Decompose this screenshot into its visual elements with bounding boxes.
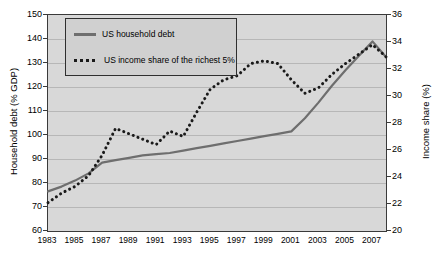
y-axis-right-tick-mark bbox=[387, 230, 391, 231]
legend-item-household-debt: US household debt bbox=[74, 29, 174, 39]
y-axis-right-tick-mark bbox=[387, 68, 391, 69]
legend-swatch-solid-line-icon bbox=[74, 33, 96, 36]
y-axis-right-tick-label: 20 bbox=[392, 226, 422, 235]
y-axis-left-tick-label: 70 bbox=[12, 202, 42, 211]
y-axis-right-tick-mark bbox=[387, 176, 391, 177]
y-axis-left-tick-label: 100 bbox=[12, 130, 42, 139]
chart-container: Household debt (% GDP) Income share (%) … bbox=[0, 0, 435, 260]
y-axis-left-tick-label: 60 bbox=[12, 226, 42, 235]
y-axis-right-tick-label: 36 bbox=[392, 10, 422, 19]
y-axis-left-tick-label: 90 bbox=[12, 154, 42, 163]
y-axis-right-tick-label: 34 bbox=[392, 37, 422, 46]
y-axis-left-tick-label: 120 bbox=[12, 82, 42, 91]
y-axis-right-tick-label: 24 bbox=[392, 172, 422, 181]
y-axis-right-tick-label: 32 bbox=[392, 64, 422, 73]
y-axis-right-tick-mark bbox=[387, 14, 391, 15]
y-axis-right-tick-mark bbox=[387, 122, 391, 123]
y-axis-right-tick-label: 26 bbox=[392, 145, 422, 154]
y-axis-right-tick-label: 22 bbox=[392, 199, 422, 208]
y-axis-right-tick-mark bbox=[387, 149, 391, 150]
legend-item-income-share: US income share of the richest 5% bbox=[74, 55, 235, 65]
y-axis-left-tick-label: 80 bbox=[12, 178, 42, 187]
y-axis-right-tick-mark bbox=[387, 203, 391, 204]
y-axis-right-tick-label: 28 bbox=[392, 118, 422, 127]
y-axis-left-title: Household debt (% GDP) bbox=[8, 47, 19, 197]
legend-label-income-share: US income share of the richest 5% bbox=[104, 55, 235, 65]
y-axis-left-tick-label: 110 bbox=[12, 106, 42, 115]
y-axis-right-tick-label: 30 bbox=[392, 91, 422, 100]
x-axis-tick-label: 2007 bbox=[351, 236, 391, 245]
y-axis-left-tick-label: 150 bbox=[12, 10, 42, 19]
y-axis-right-tick-mark bbox=[387, 41, 391, 42]
y-axis-left-tick-label: 140 bbox=[12, 34, 42, 43]
y-axis-right-tick-mark bbox=[387, 95, 391, 96]
legend-label-household-debt: US household debt bbox=[102, 29, 174, 39]
chart-legend: US household debt US income share of the… bbox=[65, 18, 237, 76]
y-axis-left-tick-label: 130 bbox=[12, 58, 42, 67]
legend-swatch-dotted-line-icon bbox=[74, 59, 98, 62]
